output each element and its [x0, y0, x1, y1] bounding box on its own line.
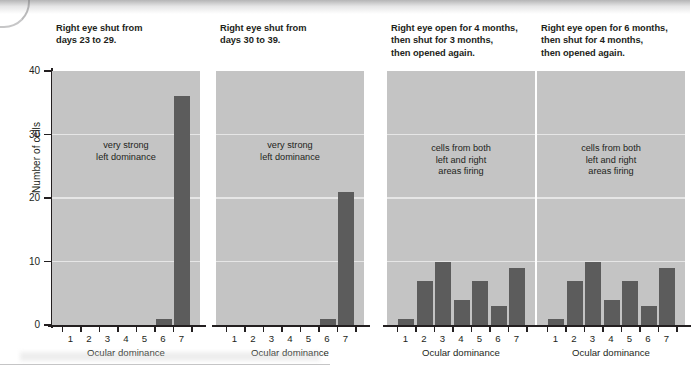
x-axis-tick-label-2-3: 3 [264, 333, 280, 344]
page-bottom-smudge [20, 352, 320, 361]
x-axis-tick-label-2-5: 5 [301, 333, 317, 344]
x-axis-tick-3-1 [397, 326, 398, 332]
bar-panel1-cat7 [174, 96, 190, 325]
x-axis-tick-label-2-7: 7 [338, 333, 354, 344]
plot-annotation-2: very strong left dominance [216, 140, 364, 163]
panel-title-1: Right eye shut from days 23 to 29. [56, 22, 142, 47]
x-axis-tick-1-2 [80, 326, 81, 332]
x-axis-tick-label-3-6: 6 [490, 333, 506, 344]
x-axis-tick-4-4 [602, 326, 603, 332]
x-axis-tick-label-3-4: 4 [453, 333, 469, 344]
bar-panel4-cat7 [659, 268, 675, 325]
x-axis-tick-label-1-1: 1 [63, 333, 79, 344]
x-axis-tick-label-4-3: 3 [585, 333, 601, 344]
x-axis-tick-label-1-2: 2 [81, 333, 97, 344]
panel-title-3: Right eye open for 4 months, then shut f… [391, 22, 518, 59]
x-axis-tick-3-4 [452, 326, 453, 332]
x-axis-title-4: Ocular dominance [537, 347, 685, 358]
y-axis-tick-label-20: 20 [10, 193, 40, 203]
plot-annotation-3: cells from both left and right areas fir… [387, 143, 535, 178]
gridline-30 [387, 134, 535, 135]
chart-panel-1: Right eye shut from days 23 to 29.very s… [52, 0, 200, 373]
y-axis-tick-40 [44, 70, 52, 72]
x-axis-tick-2-1 [226, 326, 227, 332]
y-axis-tick-label-10: 10 [10, 257, 40, 267]
x-axis-tick-1-4 [117, 326, 118, 332]
bar-panel4-cat2 [567, 281, 583, 325]
x-axis-line-3 [383, 325, 541, 327]
x-axis-tick-label-1-6: 6 [155, 333, 171, 344]
x-axis-tick-label-3-2: 2 [416, 333, 432, 344]
panel-title-4: Right eye open for 6 months, then shut f… [541, 22, 668, 59]
panel-title-2: Right eye shut from days 30 to 39. [220, 22, 306, 47]
x-axis-tick-1-6 [154, 326, 155, 332]
x-axis-tick-2-4 [281, 326, 282, 332]
x-axis-tick-label-1-4: 4 [118, 333, 134, 344]
x-axis-tick-4-1 [547, 326, 548, 332]
gridline-20 [537, 197, 685, 198]
gridline-20 [387, 197, 535, 198]
x-axis-line-1 [48, 325, 206, 327]
x-axis-tick-label-4-7: 7 [659, 333, 675, 344]
x-axis-tick-3-end [526, 326, 527, 332]
bar-panel4-cat6 [641, 306, 657, 325]
x-axis-tick-2-5 [300, 326, 301, 332]
plot-area-3: cells from both left and right areas fir… [387, 71, 535, 325]
y-axis-tick-20 [44, 197, 52, 199]
x-axis-tick-4-end [676, 326, 677, 332]
x-axis-tick-label-4-5: 5 [622, 333, 638, 344]
x-axis-tick-label-3-3: 3 [435, 333, 451, 344]
x-axis-tick-4-3 [584, 326, 585, 332]
plot-annotation-4: cells from both left and right areas fir… [537, 143, 685, 178]
x-axis-tick-2-3 [263, 326, 264, 332]
x-axis-tick-label-2-4: 4 [282, 333, 298, 344]
x-axis-tick-3-2 [415, 326, 416, 332]
x-axis-tick-label-1-7: 7 [174, 333, 190, 344]
plot-area-1: very strong left dominance [52, 71, 200, 325]
x-axis-tick-2-end [355, 326, 356, 332]
x-axis-tick-2-7 [337, 326, 338, 332]
bar-panel4-cat4 [604, 300, 620, 325]
bar-panel4-cat3 [585, 262, 601, 326]
x-axis-tick-2-2 [244, 326, 245, 332]
x-axis-tick-1-7 [173, 326, 174, 332]
x-axis-line-2 [212, 325, 370, 327]
x-axis-tick-4-5 [621, 326, 622, 332]
x-axis-tick-label-2-6: 6 [319, 333, 335, 344]
x-axis-tick-label-3-7: 7 [509, 333, 525, 344]
bar-panel3-cat5 [472, 281, 488, 325]
x-axis-tick-2-6 [318, 326, 319, 332]
x-axis-tick-1-3 [99, 326, 100, 332]
x-axis-tick-label-2-2: 2 [245, 333, 261, 344]
y-axis-tick-10 [44, 261, 52, 263]
x-axis-tick-label-1-5: 5 [137, 333, 153, 344]
bar-panel2-cat7 [338, 192, 354, 325]
x-axis-tick-1-1 [62, 326, 63, 332]
x-axis-tick-label-4-2: 2 [566, 333, 582, 344]
bar-panel4-cat5 [622, 281, 638, 325]
x-axis-tick-4-7 [658, 326, 659, 332]
y-axis-tick-30 [44, 134, 52, 136]
x-axis-tick-label-2-1: 1 [227, 333, 243, 344]
x-axis-tick-3-5 [471, 326, 472, 332]
chart-panel-2: Right eye shut from days 30 to 39.very s… [216, 0, 364, 373]
x-axis-tick-3-3 [434, 326, 435, 332]
x-axis-tick-1-end [191, 326, 192, 332]
chart-panel-3: Right eye open for 4 months, then shut f… [387, 0, 535, 373]
y-axis-tick-label-40: 40 [10, 66, 40, 76]
x-axis-tick-label-1-3: 3 [100, 333, 116, 344]
x-axis-tick-label-3-5: 5 [472, 333, 488, 344]
x-axis-tick-label-4-1: 1 [548, 333, 564, 344]
x-axis-tick-4-2 [565, 326, 566, 332]
x-axis-tick-label-4-6: 6 [640, 333, 656, 344]
chart-panel-4: Right eye open for 6 months, then shut f… [537, 0, 685, 373]
bar-panel3-cat4 [454, 300, 470, 325]
bar-panel3-cat6 [491, 306, 507, 325]
x-axis-tick-3-7 [508, 326, 509, 332]
x-axis-tick-label-3-1: 1 [398, 333, 414, 344]
bar-panel3-cat7 [509, 268, 525, 325]
gridline-30 [537, 134, 685, 135]
bar-panel3-cat2 [417, 281, 433, 325]
gridline-10 [387, 261, 535, 262]
